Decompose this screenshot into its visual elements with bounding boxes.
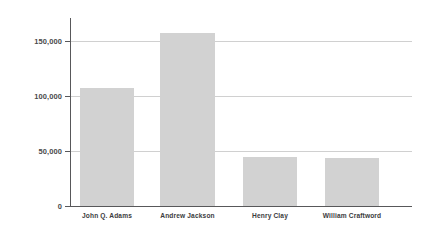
gridline-150000	[70, 41, 412, 42]
x-category-label-john-q-adams: John Q. Adams	[67, 213, 147, 220]
plot-area: 150,000 100,000 50,000 0 John Q. Adams A…	[0, 0, 427, 245]
bar-john-q-adams[interactable]	[80, 88, 134, 206]
y-tick-mark-100000	[65, 96, 70, 97]
x-axis-line	[70, 206, 412, 207]
y-tick-label-50000: 50,000	[16, 148, 62, 156]
x-category-label-william-craftword: William Craftword	[312, 213, 392, 220]
y-tick-mark-0	[65, 206, 70, 207]
bar-william-craftword[interactable]	[325, 158, 379, 206]
y-tick-label-0: 0	[16, 203, 62, 211]
y-tick-label-100000: 100,000	[16, 93, 62, 101]
x-category-label-andrew-jackson: Andrew Jackson	[147, 213, 228, 220]
x-category-label-henry-clay: Henry Clay	[230, 213, 310, 220]
y-axis-labels: 150,000 100,000 50,000 0	[10, 0, 62, 245]
bar-andrew-jackson[interactable]	[160, 33, 215, 206]
y-tick-mark-50000	[65, 151, 70, 152]
y-tick-mark-150000	[65, 41, 70, 42]
bar-henry-clay[interactable]	[243, 157, 297, 206]
bar-chart: 150,000 100,000 50,000 0 John Q. Adams A…	[0, 0, 427, 245]
y-axis-line	[70, 18, 71, 206]
y-tick-label-150000: 150,000	[16, 38, 62, 46]
